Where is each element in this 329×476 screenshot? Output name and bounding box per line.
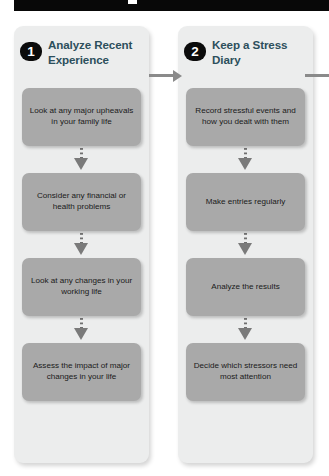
step-box: Record stressful events and how you deal… bbox=[186, 88, 305, 146]
step-box: Assess the impact of major changes in yo… bbox=[22, 343, 141, 401]
step-panel-2-steps: Record stressful events and how you deal… bbox=[186, 88, 305, 401]
step-connector-arrow bbox=[22, 231, 141, 258]
step-number-badge-1: 1 bbox=[20, 42, 42, 61]
connector-arrowhead-icon bbox=[238, 328, 252, 340]
top-header-bar bbox=[14, 0, 329, 11]
step-box: Look at any major upheavals in your fami… bbox=[22, 88, 141, 146]
arrow-shaft bbox=[149, 74, 175, 77]
step-box-text: Decide which stressors need most attenti… bbox=[191, 361, 300, 382]
step-panel-1-title: Analyze Recent Experience bbox=[48, 38, 144, 67]
step-box: Make entries regularly bbox=[186, 173, 305, 231]
step-box: Analyze the results bbox=[186, 258, 305, 316]
connector-arrowhead-icon bbox=[74, 243, 88, 255]
step-connector-arrow bbox=[186, 146, 305, 173]
connector-arrowhead-icon bbox=[238, 158, 252, 170]
step-panel-1: 1 Analyze Recent Experience Look at any … bbox=[14, 26, 149, 463]
arrow-shaft bbox=[305, 74, 329, 77]
connector-arrowhead-icon bbox=[74, 158, 88, 170]
arrow-step1-to-step2-icon bbox=[149, 70, 182, 82]
step-box-text: Make entries regularly bbox=[206, 197, 286, 208]
connector-arrowhead-icon bbox=[74, 328, 88, 340]
step-box-text: Look at any changes in your working life bbox=[27, 276, 136, 297]
step-connector-arrow bbox=[22, 316, 141, 343]
arrow-head bbox=[173, 70, 182, 82]
arrow-step2-to-next-icon bbox=[305, 70, 329, 82]
step-panel-1-header: 1 Analyze Recent Experience bbox=[14, 36, 149, 84]
flowchart-columns: 1 Analyze Recent Experience Look at any … bbox=[0, 26, 329, 476]
step-connector-arrow bbox=[22, 146, 141, 173]
step-connector-arrow bbox=[186, 316, 305, 343]
step-box: Look at any changes in your working life bbox=[22, 258, 141, 316]
step-panel-2-header: 2 Keep a Stress Diary bbox=[178, 36, 313, 84]
step-panel-2: 2 Keep a Stress Diary Record stressful e… bbox=[178, 26, 313, 463]
step-box-text: Consider any financial or health problem… bbox=[27, 191, 136, 212]
step-panel-1-steps: Look at any major upheavals in your fami… bbox=[22, 88, 141, 401]
step-box-text: Assess the impact of major changes in yo… bbox=[27, 361, 136, 382]
header-bar-mark bbox=[128, 0, 137, 4]
step-box-text: Look at any major upheavals in your fami… bbox=[27, 106, 136, 127]
flowchart-page: 1 Analyze Recent Experience Look at any … bbox=[0, 0, 329, 476]
step-box-text: Analyze the results bbox=[211, 282, 279, 293]
step-box-text: Record stressful events and how you deal… bbox=[191, 106, 300, 127]
step-panel-2-title: Keep a Stress Diary bbox=[212, 38, 308, 67]
step-box: Decide which stressors need most attenti… bbox=[186, 343, 305, 401]
step-number-badge-2: 2 bbox=[184, 42, 206, 61]
step-connector-arrow bbox=[186, 231, 305, 258]
step-box: Consider any financial or health problem… bbox=[22, 173, 141, 231]
connector-arrowhead-icon bbox=[238, 243, 252, 255]
